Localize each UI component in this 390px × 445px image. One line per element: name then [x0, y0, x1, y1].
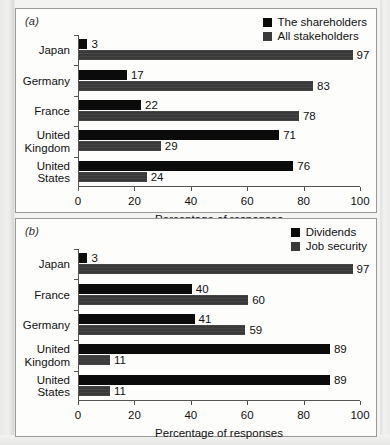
x-axis-tick-label: 60 [241, 195, 254, 207]
y-axis-tick [74, 249, 78, 250]
x-axis-tick [191, 401, 192, 405]
category-label: Japan [39, 44, 70, 57]
x-axis-tick [304, 187, 305, 191]
bar [79, 81, 313, 91]
bar-value-label: 3 [91, 252, 97, 264]
x-axis-tick [360, 401, 361, 405]
x-axis-tick-label: 60 [241, 409, 254, 421]
x-axis-tick [304, 401, 305, 405]
bar [79, 100, 141, 110]
bar [79, 314, 195, 324]
bar [79, 253, 87, 263]
bar-value-label: 89 [334, 343, 347, 355]
x-axis-tick [191, 187, 192, 191]
bar-value-label: 41 [199, 313, 212, 325]
bar-value-label: 60 [252, 294, 265, 306]
bar-value-label: 97 [357, 263, 370, 275]
category-label: France [34, 288, 70, 301]
y-axis-tick [74, 35, 78, 36]
category-label: Germany [23, 74, 70, 87]
y-axis-tick [74, 279, 78, 280]
x-axis-line [78, 186, 360, 187]
legend-item-label: The shareholders [278, 16, 368, 28]
bar [79, 39, 87, 49]
x-axis-tick-label: 0 [75, 409, 81, 421]
x-axis-tick-label: 100 [350, 409, 369, 421]
y-axis-tick [74, 340, 78, 341]
bar-value-label: 97 [357, 49, 370, 61]
bar-value-label: 71 [283, 129, 296, 141]
bar [79, 386, 110, 396]
y-axis-tick [74, 96, 78, 97]
bar [79, 264, 353, 274]
bar [79, 284, 192, 294]
y-axis-tick [74, 310, 78, 311]
bar-value-label: 78 [303, 110, 316, 122]
bar [79, 172, 147, 182]
bar-value-label: 17 [131, 69, 144, 81]
x-axis-tick [134, 401, 135, 405]
bar [79, 375, 330, 385]
y-axis-tick [74, 126, 78, 127]
x-axis-tick-label: 100 [350, 195, 369, 207]
category-label: UnitedStates [37, 373, 70, 398]
bar [79, 325, 245, 335]
chart-panel-b: (b) DividendsJob security Percentage of … [15, 218, 377, 437]
bar [79, 130, 279, 140]
bar [79, 355, 110, 365]
x-axis-tick-label: 40 [184, 409, 197, 421]
legend-swatch-icon [291, 228, 300, 237]
category-label: UnitedKingdom [25, 129, 70, 154]
bar-value-label: 22 [145, 99, 158, 111]
figure: (a) The shareholdersAll stakeholders Per… [15, 8, 377, 438]
legend-swatch-icon [263, 18, 272, 27]
bar [79, 70, 127, 80]
bar-value-label: 11 [114, 385, 126, 397]
bar-value-label: 89 [334, 374, 347, 386]
y-axis-tick [74, 65, 78, 66]
category-label: UnitedStates [37, 159, 70, 184]
category-label: Germany [23, 319, 70, 332]
bar [79, 344, 330, 354]
bar-value-label: 59 [249, 324, 262, 336]
plot-area-a: Percentage of responses 020406080100Japa… [78, 35, 360, 187]
page-edge-right [380, 0, 390, 445]
x-axis-tick-label: 80 [297, 195, 310, 207]
chart-panel-a: (a) The shareholdersAll stakeholders Per… [15, 8, 377, 213]
plot-area-b: Percentage of responses 020406080100Japa… [78, 249, 360, 401]
x-axis-tick [78, 187, 79, 191]
x-axis-title-b: Percentage of responses [78, 427, 360, 439]
panel-label-a: (a) [25, 15, 39, 27]
x-axis-tick [134, 187, 135, 191]
x-axis-tick [247, 187, 248, 191]
legend-item-b-0[interactable]: Dividends [291, 225, 367, 239]
x-axis-tick [247, 401, 248, 405]
x-axis-tick-label: 20 [128, 409, 141, 421]
bar-value-label: 40 [196, 283, 209, 295]
y-axis-tick [74, 157, 78, 158]
x-axis-tick [78, 401, 79, 405]
y-axis-tick [74, 371, 78, 372]
bar-value-label: 29 [165, 140, 178, 152]
bar-value-label: 83 [317, 80, 330, 92]
bar [79, 50, 353, 60]
legend-item-label: Dividends [306, 226, 357, 238]
bar [79, 161, 293, 171]
bar [79, 111, 299, 121]
x-axis-tick [360, 187, 361, 191]
bar [79, 141, 161, 151]
bar-value-label: 76 [297, 160, 310, 172]
page-edge-left [0, 0, 15, 445]
legend-item-a-0[interactable]: The shareholders [263, 15, 368, 29]
category-label: UnitedKingdom [25, 343, 70, 368]
bar-value-label: 11 [114, 354, 126, 366]
x-axis-line [78, 400, 360, 401]
x-axis-tick-label: 80 [297, 409, 310, 421]
bar-value-label: 24 [151, 171, 164, 183]
bar-value-label: 3 [91, 38, 97, 50]
category-label: France [34, 105, 70, 118]
x-axis-tick-label: 20 [128, 195, 141, 207]
panel-label-b: (b) [25, 225, 39, 237]
category-label: Japan [39, 258, 70, 271]
x-axis-tick-label: 40 [184, 195, 197, 207]
